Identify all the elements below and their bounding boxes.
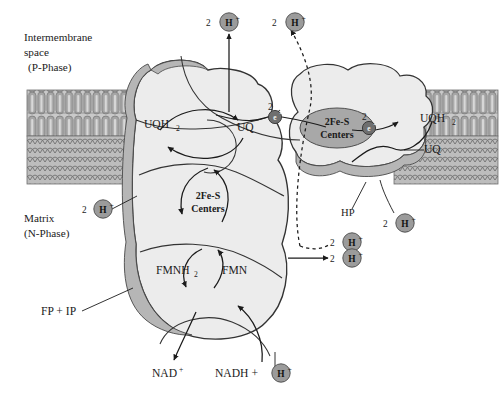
svg-text:Centers: Centers [191, 203, 224, 214]
leader-fp-ip [82, 288, 133, 311]
svg-text:2: 2 [383, 219, 388, 229]
proton-h-top-right: 2 H + [272, 13, 306, 31]
svg-text:2: 2 [82, 205, 87, 215]
label-fmn: FMN [222, 264, 248, 277]
svg-text:UQH: UQH [144, 118, 170, 131]
svg-text:Centers: Centers [320, 129, 353, 140]
complex-i-diagram: 2 H + 2 H + 2 H + 2 H + 2 H + 2 H + 2 e … [0, 0, 503, 393]
dashed-proton-tail [300, 244, 330, 249]
proton-h-top-left: 2 H + [206, 13, 240, 31]
svg-text:2: 2 [452, 118, 456, 127]
svg-text:2: 2 [194, 270, 198, 279]
electron-e-left: 2 e - [268, 102, 283, 124]
svg-text:NADH +: NADH + [215, 367, 258, 380]
svg-text:2: 2 [206, 18, 211, 28]
svg-text:+: + [179, 365, 183, 374]
hp-subunit [289, 64, 432, 177]
proton-h-matrix-solid: 2 H + [330, 249, 363, 267]
leader-hp [352, 182, 366, 209]
label-uq-center: UQ [237, 121, 254, 134]
label-fp-ip: FP + IP [41, 305, 76, 318]
svg-text:space: space [24, 46, 49, 58]
proton-h-matrix-dashed: 2 H + [330, 233, 363, 251]
svg-text:H: H [401, 219, 409, 229]
label-matrix: Matrix (N-Phase) [24, 212, 70, 240]
svg-text:2Fe-S: 2Fe-S [196, 190, 221, 201]
svg-text:(P-Phase): (P-Phase) [28, 61, 72, 74]
label-uq-right: UQ [424, 143, 441, 156]
svg-text:H: H [348, 238, 356, 248]
svg-text:2: 2 [330, 254, 335, 264]
svg-text:+: + [359, 234, 363, 243]
svg-text:FMNH: FMNH [156, 264, 190, 277]
svg-text:+: + [288, 365, 292, 374]
svg-text:2: 2 [268, 102, 273, 112]
svg-text:+: + [412, 215, 416, 224]
svg-text:Matrix: Matrix [24, 212, 55, 224]
svg-text:2: 2 [362, 112, 367, 122]
svg-text:2: 2 [176, 124, 180, 133]
svg-text:Intermembrane: Intermembrane [24, 31, 92, 43]
membrane-left [27, 90, 137, 184]
label-intermembrane-space: Intermembrane space (P-Phase) [24, 31, 92, 74]
proton-h-matrix-left: 2 H + [82, 200, 114, 218]
svg-text:UQH: UQH [420, 112, 446, 125]
svg-text:H: H [225, 18, 233, 28]
svg-text:+: + [302, 14, 306, 23]
label-hp: HP [341, 207, 355, 218]
svg-text:+: + [110, 201, 114, 210]
leader-h-hp [380, 180, 394, 213]
svg-text:2: 2 [330, 238, 335, 248]
svg-text:+: + [359, 250, 363, 259]
svg-text:H: H [99, 205, 107, 215]
figure-canvas: 2 H + 2 H + 2 H + 2 H + 2 H + 2 H + 2 e … [0, 0, 503, 393]
label-nadh: NADH + H + [215, 364, 292, 382]
svg-text:NAD: NAD [152, 367, 177, 380]
svg-text:+: + [236, 14, 240, 23]
svg-text:2Fe-S: 2Fe-S [325, 116, 350, 127]
svg-text:H: H [348, 254, 356, 264]
label-nad-plus: NAD + [152, 365, 183, 380]
svg-text:2: 2 [272, 18, 277, 28]
svg-text:H: H [277, 369, 285, 379]
svg-text:H: H [291, 18, 299, 28]
proton-h-matrix-hp: 2 H + [383, 214, 416, 232]
svg-text:(N-Phase): (N-Phase) [24, 227, 70, 240]
svg-text:-: - [280, 109, 283, 118]
